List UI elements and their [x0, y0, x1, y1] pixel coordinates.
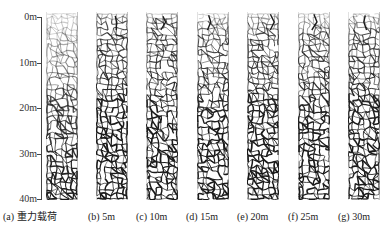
depth-tick-20m: 20m	[0, 108, 42, 118]
caption-e: (e) 20m	[237, 211, 268, 223]
depth-tick-40m: 40m	[0, 199, 42, 209]
panel-e-crack-pattern	[247, 12, 279, 200]
tick-mark	[37, 108, 42, 109]
crack-pattern-image	[197, 12, 229, 200]
crack-pattern-image	[96, 12, 128, 200]
caption-g: (g) 30m	[338, 211, 370, 223]
panel-f-crack-pattern	[298, 12, 330, 200]
depth-tick-label: 40m	[19, 194, 37, 204]
caption-a: (a) 重力载荷	[3, 211, 57, 223]
depth-tick-label: 20m	[19, 103, 37, 113]
tick-mark	[37, 63, 42, 64]
depth-tick-label: 10m	[19, 58, 37, 68]
tick-mark	[37, 154, 42, 155]
panel-d-crack-pattern	[197, 12, 229, 200]
depth-tick-30m: 30m	[0, 154, 42, 164]
panel-b-crack-pattern	[96, 12, 128, 200]
crack-pattern-image	[146, 12, 178, 200]
depth-tick-0m: 0m	[0, 17, 42, 27]
crack-pattern-image	[46, 12, 78, 200]
depth-tick-label: 0m	[24, 12, 37, 22]
depth-axis: 0m 10m 20m 30m 40m	[0, 0, 46, 205]
tick-mark	[37, 199, 42, 200]
panel-c-crack-pattern	[146, 12, 178, 200]
caption-f: (f) 25m	[288, 211, 318, 223]
tick-mark	[37, 17, 42, 18]
caption-d: (d) 15m	[186, 211, 218, 223]
panel-a-crack-pattern	[46, 12, 78, 200]
caption-b: (b) 5m	[88, 211, 115, 223]
caption-c: (c) 10m	[136, 211, 167, 223]
crack-pattern-image	[348, 12, 380, 200]
depth-tick-10m: 10m	[0, 63, 42, 73]
depth-tick-label: 30m	[19, 149, 37, 159]
crack-pattern-image	[247, 12, 279, 200]
crack-pattern-image	[298, 12, 330, 200]
panel-g-crack-pattern	[348, 12, 380, 200]
